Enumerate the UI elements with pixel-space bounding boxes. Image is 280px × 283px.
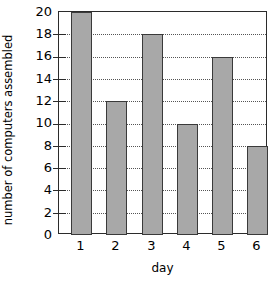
y-tick-label: 10 bbox=[24, 116, 52, 129]
y-axis-title: number of computers assembled bbox=[0, 15, 16, 245]
y-tick-mark bbox=[53, 213, 66, 214]
y-tick-mark bbox=[53, 57, 66, 58]
y-tick-label: 12 bbox=[24, 94, 52, 107]
y-tick-label: 4 bbox=[24, 183, 52, 196]
x-tick-label-1: 1 bbox=[66, 238, 96, 253]
y-tick-mark bbox=[53, 190, 66, 191]
y-tick-mark bbox=[53, 168, 66, 169]
bar-day-2 bbox=[106, 101, 127, 235]
y-tick-label: 20 bbox=[24, 5, 52, 18]
x-tick-label-3: 3 bbox=[137, 238, 167, 253]
bar-day-5 bbox=[212, 57, 233, 235]
y-tick-label: 2 bbox=[24, 206, 52, 219]
plot-area bbox=[58, 11, 267, 234]
bar-day-3 bbox=[142, 34, 163, 235]
y-tick-label: 18 bbox=[24, 27, 52, 40]
y-tick-mark bbox=[53, 124, 66, 125]
y-tick-label: 0 bbox=[24, 228, 52, 241]
y-tick-mark bbox=[53, 146, 66, 147]
x-tick-label-4: 4 bbox=[172, 238, 202, 253]
x-axis-title: day bbox=[58, 261, 267, 275]
bar-day-4 bbox=[177, 124, 198, 236]
x-tick-label-6: 6 bbox=[242, 238, 272, 253]
x-tick-label-5: 5 bbox=[207, 238, 237, 253]
y-tick-mark bbox=[53, 101, 66, 102]
bar-chart: number of computers assembled 20 18 16 1… bbox=[0, 0, 280, 283]
y-tick-label: 8 bbox=[24, 139, 52, 152]
bar-day-1 bbox=[71, 12, 92, 235]
y-tick-label: 6 bbox=[24, 161, 52, 174]
y-tick-label: 16 bbox=[24, 49, 52, 62]
y-tick-mark bbox=[53, 79, 66, 80]
bar-day-6 bbox=[247, 146, 268, 235]
y-tick-label: 14 bbox=[24, 72, 52, 85]
x-tick-label-2: 2 bbox=[101, 238, 131, 253]
y-tick-mark bbox=[53, 34, 66, 35]
